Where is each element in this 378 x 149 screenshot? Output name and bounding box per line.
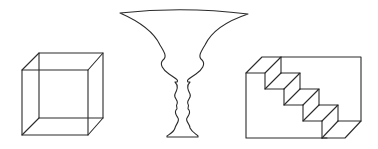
rubin-vase bbox=[120, 10, 248, 137]
illusions-figure: Necker cube Rubin vase Schroeder stairs bbox=[0, 0, 378, 149]
illusions-drawing bbox=[0, 0, 378, 149]
necker-cube bbox=[22, 53, 103, 135]
schroeder-stairs bbox=[246, 57, 361, 138]
